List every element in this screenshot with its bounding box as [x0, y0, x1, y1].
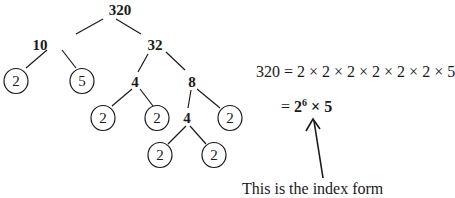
arrow-shaft-icon: [314, 121, 323, 178]
arrow-head-icon: [306, 119, 320, 131]
index-form-note: This is the index form: [242, 180, 383, 198]
